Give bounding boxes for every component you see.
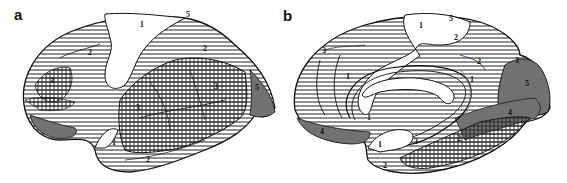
zone-label: 3 [322,46,326,55]
zone-label: 2 [454,33,458,42]
zone-label: 3 [214,82,218,91]
medial-brain-drawing: 1 5 2 3 2 1 1 3 5 4 1 4 1 3 2 2 [280,0,567,183]
zone-label: 1 [367,113,371,122]
zone-label: 5 [449,14,453,23]
zone-label: 3 [515,56,519,65]
zone-label: 3 [414,137,418,146]
zone-label: 3 [50,76,54,85]
zone-label: 5 [186,10,190,19]
zone-label: 1 [346,72,350,81]
zone-label: 5 [255,83,259,92]
zone-label: 2 [383,161,387,170]
zone-label: 1 [378,140,382,149]
zone-label: 4 [320,127,324,136]
zone-label: 1 [470,75,474,84]
zone-label: 1 [140,20,144,29]
zone-label: 2 [457,134,461,143]
panel-b-medial-view: b [280,0,567,183]
zone-label: 2 [203,44,207,53]
zone-label: 4 [508,108,512,117]
zone-label: 3 [136,103,140,112]
zone-label: 5 [525,79,529,88]
zone-label: 1 [112,138,116,147]
zone-label: 1 [419,21,423,30]
zone-label: 2 [146,155,150,164]
zone-label: 2 [477,57,481,66]
lateral-brain-drawing: 1 5 2 2 3 3 5 1 2 3 [0,0,280,183]
panel-a-lateral-view: a [0,0,280,183]
zone-label: 2 [88,48,92,57]
